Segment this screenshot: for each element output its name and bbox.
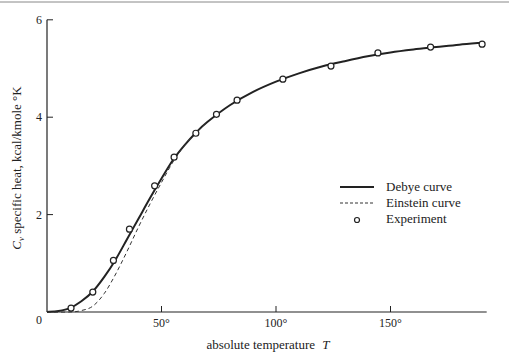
experiment-point [328, 63, 334, 69]
experiment-point [193, 130, 199, 136]
experiment-point [171, 154, 177, 160]
y-axis-label-text: specific heat, kcal/kmole °K [9, 86, 24, 237]
x-axis-label-text: absolute temperature [206, 337, 315, 352]
y-tick-label: 2 [36, 208, 42, 222]
experiment-point [213, 111, 219, 117]
x-axis-variable: T [322, 337, 330, 352]
experiment-point [126, 226, 132, 232]
axes: 024650°100°150° [36, 13, 487, 330]
legend-circle-icon [355, 218, 360, 223]
specific-heat-chart: 024650°100°150° Debye curveEinstein curv… [0, 0, 509, 364]
legend: Debye curveEinstein curveExperiment [340, 179, 461, 226]
curves [47, 43, 482, 312]
debye-curve [47, 43, 482, 312]
experiment-point [68, 305, 74, 311]
legend-label: Experiment [386, 211, 447, 226]
y-tick-label: 4 [36, 110, 42, 124]
x-tick-label: 100° [265, 316, 288, 330]
x-tick-label: 50° [153, 316, 170, 330]
y-tick-label: 6 [36, 13, 42, 27]
experiment-point [280, 76, 286, 82]
y-axis-label: Cv specific heat, kcal/kmole °K [9, 86, 26, 250]
experiment-point [152, 183, 158, 189]
x-axis-label: absolute temperature T [206, 337, 330, 352]
experiment-point [479, 41, 485, 47]
y-tick-label: 0 [36, 313, 42, 327]
experiment-point [234, 97, 240, 103]
experiment-point [375, 50, 381, 56]
x-tick-label: 150° [379, 316, 402, 330]
experiment-point [90, 289, 96, 295]
chart-container: 024650°100°150° Debye curveEinstein curv… [0, 0, 509, 364]
experiment-point [428, 44, 434, 50]
legend-label: Einstein curve [386, 195, 461, 210]
einstein-curve [47, 122, 207, 312]
legend-label: Debye curve [386, 179, 452, 194]
y-axis-variable: C [9, 241, 24, 250]
experiment-point [110, 257, 116, 263]
